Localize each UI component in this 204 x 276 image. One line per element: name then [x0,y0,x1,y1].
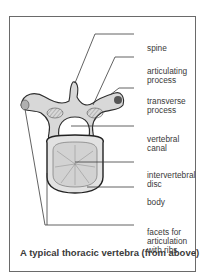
label-transverse-process: transverse process [147,97,186,115]
figure-caption: A typical thoracic vertebra (from above) [20,247,200,258]
label-intervertebral-disc: intervertebral disc [147,171,195,189]
label-body: body [147,198,165,207]
figure-frame: spine articulating process transverse pr… [9,16,196,272]
label-spine: spine [147,44,167,53]
label-articulating-process: articulating process [147,67,187,85]
label-vertebral-canal: vertebral canal [147,135,179,153]
